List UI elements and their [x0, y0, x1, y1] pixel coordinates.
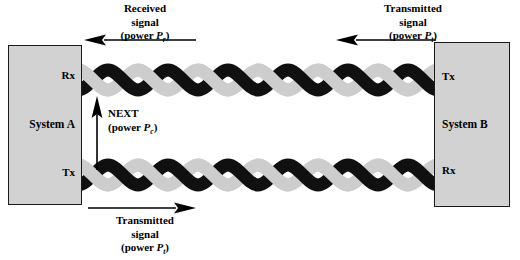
received-signal-line1: Received [85, 2, 205, 16]
transmitted-bottom-power-prefix: (power [121, 241, 157, 253]
received-signal-line2: signal [85, 16, 205, 30]
twisted-pair-cable-bottom [78, 157, 438, 193]
system-a-box: Rx System A Tx [8, 45, 82, 205]
transmitted-signal-top-arrow [336, 33, 436, 47]
transmitted-top-line2: signal [348, 16, 478, 30]
system-a-port-tx-label: Tx [62, 167, 75, 178]
system-a-port-rx-label: Rx [62, 70, 75, 81]
system-b-port-tx-label: Tx [442, 71, 455, 82]
transmitted-bottom-power: (power Pt) [80, 241, 210, 259]
system-b-name-label: System B [442, 119, 488, 131]
transmitted-bottom-line2: signal [80, 228, 210, 242]
next-coupling-arrow [89, 96, 105, 170]
next-power: (power Pc) [108, 120, 157, 139]
received-signal-arrow [84, 33, 196, 47]
twisted-pair-cable-top [78, 62, 438, 98]
next-power-suffix: ) [154, 121, 158, 133]
transmitted-signal-bottom-arrow [88, 201, 196, 215]
system-b-box: Tx System B Rx [434, 42, 510, 207]
transmitted-bottom-line1: Transmitted [80, 214, 210, 228]
system-b-port-rx-label: Rx [442, 165, 455, 176]
next-caption: NEXT (power Pc) [108, 106, 157, 139]
next-crosstalk-diagram: Rx System A Tx Tx System B Rx Received s… [0, 0, 520, 260]
transmitted-signal-bottom-caption: Transmitted signal (power Pt) [80, 214, 210, 259]
transmitted-top-line1: Transmitted [348, 2, 478, 16]
next-label: NEXT [108, 106, 157, 120]
system-a-name-label: System A [29, 119, 75, 131]
transmitted-bottom-power-suffix: ) [165, 241, 169, 253]
next-power-prefix: (power [108, 121, 144, 133]
